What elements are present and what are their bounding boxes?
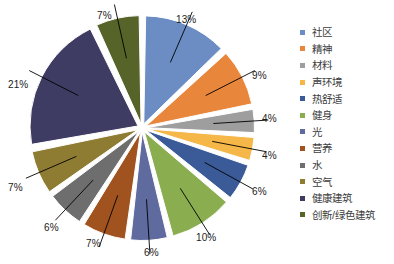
pie-percentage-label: 7% — [97, 10, 112, 21]
pie-percentage-label: 10% — [196, 232, 216, 243]
pie-percentage-label: 6% — [44, 222, 59, 233]
legend-item[interactable]: 热舒适 — [300, 90, 394, 107]
legend-item-label: 健身 — [312, 109, 332, 121]
pie-percentage-label: 9% — [252, 70, 267, 81]
legend-item-label: 创新/绿色建筑 — [312, 209, 375, 221]
pie-chart-figure: 13%9%4%4%6%10%6%7%6%7%21%7% 社区精神材料声环境热舒适… — [0, 0, 394, 264]
legend-item-label: 光 — [312, 126, 322, 138]
legend-item-label: 社区 — [312, 26, 332, 38]
legend-swatch-icon — [300, 113, 305, 118]
pie-percentage-label: 6% — [144, 247, 159, 258]
legend-swatch-icon — [300, 196, 305, 201]
legend-swatch-icon — [300, 80, 305, 85]
pie-percentage-label: 7% — [8, 182, 23, 193]
legend-item-label: 热舒适 — [312, 93, 342, 105]
pie-percentage-label: 13% — [176, 14, 196, 25]
legend-item-label: 精神 — [312, 43, 332, 55]
legend-swatch-icon — [300, 129, 305, 134]
legend-swatch-icon — [300, 96, 305, 101]
pie-percentage-label: 7% — [86, 238, 101, 249]
legend-item[interactable]: 水 — [300, 157, 394, 174]
pie-percentage-label: 4% — [262, 113, 277, 124]
legend-swatch-icon — [300, 63, 305, 68]
legend-item[interactable]: 空气 — [300, 173, 394, 190]
legend-item-label: 材料 — [312, 59, 332, 71]
legend-item[interactable]: 社区 — [300, 24, 394, 41]
legend-swatch-icon — [300, 212, 305, 217]
legend-item-label: 营养 — [312, 142, 332, 154]
chart-legend: 社区精神材料声环境热舒适健身光营养水空气健康建筑创新/绿色建筑 — [300, 24, 394, 223]
legend-swatch-icon — [300, 30, 305, 35]
legend-item-label: 水 — [312, 159, 322, 171]
legend-item[interactable]: 健身 — [300, 107, 394, 124]
legend-item[interactable]: 精神 — [300, 41, 394, 58]
legend-item[interactable]: 声环境 — [300, 74, 394, 91]
legend-item[interactable]: 材料 — [300, 57, 394, 74]
legend-item[interactable]: 光 — [300, 124, 394, 141]
pie-chart-plot-area: 13%9%4%4%6%10%6%7%6%7%21%7% — [0, 0, 284, 264]
legend-item-label: 空气 — [312, 176, 332, 188]
legend-swatch-icon — [300, 179, 305, 184]
legend-item[interactable]: 营养 — [300, 140, 394, 157]
pie-percentage-label: 4% — [262, 150, 277, 161]
pie-chart-svg — [0, 0, 284, 264]
legend-swatch-icon — [300, 163, 305, 168]
pie-percentage-label: 21% — [8, 79, 28, 90]
legend-item-label: 健康建筑 — [312, 192, 352, 204]
legend-item[interactable]: 健康建筑 — [300, 190, 394, 207]
legend-item-label: 声环境 — [312, 76, 342, 88]
pie-slice-group — [30, 16, 254, 241]
legend-swatch-icon — [300, 46, 305, 51]
legend-item[interactable]: 创新/绿色建筑 — [300, 207, 394, 224]
legend-swatch-icon — [300, 146, 305, 151]
pie-percentage-label: 6% — [252, 186, 267, 197]
